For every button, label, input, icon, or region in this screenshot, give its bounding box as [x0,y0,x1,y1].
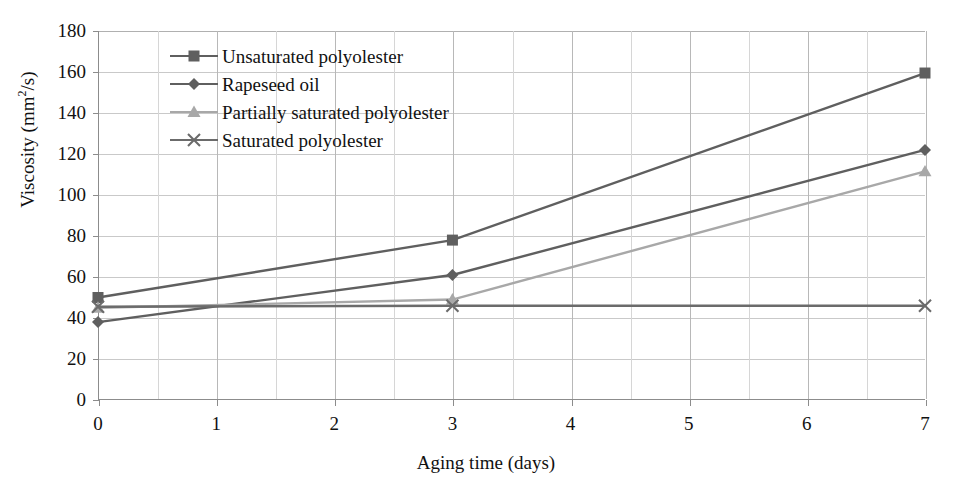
x-tick-label: 3 [432,414,472,433]
y-tick-mark [93,236,99,237]
gridline-vertical [867,31,868,399]
gridline-vertical [513,31,514,399]
legend-marker-icon [170,130,218,150]
x-tick-mark [335,400,336,406]
legend-item-1[interactable]: Unsaturated polyolester [170,42,449,70]
y-tick-mark [93,277,99,278]
y-axis-title: Viscosity (mm2/s) [15,25,38,255]
gridline-vertical [158,31,159,399]
legend-label: Partially saturated polyolester [222,103,449,122]
x-tick-label: 0 [78,414,118,433]
y-tick-mark [93,113,99,114]
legend-item-4[interactable]: Saturated polyolester [170,126,449,154]
y-tick-mark [93,318,99,319]
x-axis-title: Aging time (days) [0,452,972,474]
chart-figure: Unsaturated polyolesterRapeseed oilParti… [0,0,972,492]
gridline-vertical [572,31,573,399]
legend-marker-icon [170,74,218,94]
legend-label: Rapeseed oil [222,75,320,94]
legend-marker-icon [170,102,218,122]
x-tick-label: 1 [196,414,236,433]
legend-item-2[interactable]: Rapeseed oil [170,70,449,98]
y-tick-label: 80 [40,226,86,245]
gridline-vertical [690,31,691,399]
y-tick-mark [93,359,99,360]
y-tick-label: 100 [40,185,86,204]
y-tick-mark [93,31,99,32]
x-tick-mark [690,400,691,406]
gridline-vertical [453,31,454,399]
x-tick-label: 6 [787,414,827,433]
y-tick-label: 180 [40,21,86,40]
x-tick-mark [99,400,100,406]
legend-marker-icon [170,46,218,66]
x-tick-mark [217,400,218,406]
x-tick-label: 5 [669,414,709,433]
x-tick-label: 4 [551,414,591,433]
chart-legend: Unsaturated polyolesterRapeseed oilParti… [170,42,449,154]
y-tick-label: 20 [40,349,86,368]
y-tick-mark [93,195,99,196]
y-tick-label: 60 [40,267,86,286]
gridline-vertical [926,31,927,399]
y-tick-label: 160 [40,62,86,81]
x-tick-label: 2 [314,414,354,433]
x-tick-mark [572,400,573,406]
y-tick-label: 40 [40,308,86,327]
x-tick-label: 7 [905,414,945,433]
y-tick-label: 120 [40,144,86,163]
y-tick-mark [93,154,99,155]
legend-label: Saturated polyolester [222,131,383,150]
y-tick-label: 0 [40,390,86,409]
y-tick-label: 140 [40,103,86,122]
legend-label: Unsaturated polyolester [222,47,403,66]
gridline-vertical [808,31,809,399]
x-tick-mark [808,400,809,406]
legend-item-3[interactable]: Partially saturated polyolester [170,98,449,126]
gridline-vertical [749,31,750,399]
x-tick-mark [926,400,927,406]
y-tick-mark [93,72,99,73]
gridline-vertical [631,31,632,399]
x-tick-mark [453,400,454,406]
